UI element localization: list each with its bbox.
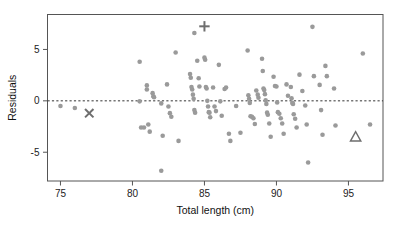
data-point (303, 103, 308, 108)
data-point (176, 139, 181, 144)
data-point (323, 64, 328, 69)
data-point (361, 51, 366, 56)
data-point (260, 69, 265, 74)
data-point (191, 92, 196, 97)
plot-frame (48, 15, 384, 182)
data-point (227, 131, 232, 136)
y-tick-label: 0 (34, 95, 40, 106)
data-point (193, 110, 198, 115)
data-point (224, 85, 229, 90)
data-point (304, 122, 309, 127)
data-point (234, 104, 239, 109)
data-point (211, 85, 216, 90)
data-point (262, 88, 267, 93)
data-point (289, 96, 294, 101)
data-point (245, 48, 250, 53)
data-point (275, 100, 280, 105)
data-point (206, 104, 211, 109)
y-tick-label: -5 (31, 147, 40, 158)
data-point (195, 58, 200, 63)
data-point (58, 104, 63, 109)
data-point (191, 96, 196, 101)
data-point (169, 114, 174, 119)
data-point (312, 74, 317, 79)
data-point (197, 84, 202, 89)
data-point (212, 104, 217, 109)
data-point (204, 86, 209, 91)
data-point (188, 75, 193, 80)
data-point (260, 56, 265, 61)
data-point (263, 92, 268, 97)
data-point (254, 88, 259, 93)
data-point (196, 76, 201, 81)
data-point (205, 99, 210, 104)
x-tick-label: 90 (271, 188, 283, 199)
data-point (291, 112, 296, 117)
x-tick-label: 75 (55, 188, 67, 199)
data-point (294, 125, 299, 130)
data-point (147, 129, 152, 134)
x-tick-label: 95 (343, 188, 355, 199)
data-point (190, 87, 195, 92)
data-point (293, 117, 298, 122)
data-point (332, 86, 337, 91)
data-point (325, 74, 330, 79)
data-point (208, 115, 213, 120)
data-point (218, 99, 223, 104)
data-point (277, 111, 282, 116)
data-point (166, 104, 171, 109)
data-point (310, 25, 315, 30)
data-point (271, 74, 276, 79)
data-point (281, 131, 286, 136)
data-point (192, 31, 197, 36)
data-point (217, 63, 222, 68)
x-axis-title: Total length (cm) (176, 204, 254, 216)
data-point (253, 122, 258, 127)
data-point (267, 121, 272, 126)
data-point (146, 122, 151, 127)
data-point (137, 59, 142, 64)
data-point (214, 109, 219, 114)
data-point (238, 130, 243, 135)
data-point (278, 116, 283, 121)
x-tick-label: 80 (127, 188, 139, 199)
data-point (207, 110, 212, 115)
data-point (145, 87, 150, 92)
marker-triangle-icon (350, 132, 360, 141)
data-point (317, 83, 322, 88)
data-point (165, 82, 170, 87)
data-point (266, 112, 271, 117)
data-point (145, 83, 150, 88)
data-point (251, 116, 256, 121)
data-point (320, 132, 325, 137)
y-axis-title: Residuals (6, 75, 18, 121)
data-point (228, 139, 233, 144)
data-point (368, 122, 373, 127)
data-point (137, 99, 142, 104)
y-tick-label: 5 (34, 44, 40, 55)
x-tick-label: 85 (199, 188, 211, 199)
residual-scatter-figure: 758085909550-5Total length (cm)Residuals (0, 0, 397, 231)
data-point (203, 57, 208, 62)
data-point (268, 135, 273, 140)
data-point (247, 96, 252, 101)
plot-canvas: 758085909550-5Total length (cm)Residuals (0, 0, 397, 231)
data-point (306, 160, 311, 165)
data-point (291, 102, 296, 107)
data-point (300, 89, 305, 94)
data-point (333, 123, 338, 128)
data-point (289, 85, 294, 90)
data-point (256, 95, 261, 100)
data-point (280, 121, 285, 126)
data-point (297, 72, 302, 77)
data-point (274, 84, 279, 89)
data-point (319, 108, 324, 113)
data-point (142, 125, 147, 130)
data-point (160, 133, 165, 138)
data-point (159, 101, 164, 106)
data-point (173, 50, 178, 55)
data-point (219, 113, 224, 118)
data-point (73, 106, 78, 111)
data-point (264, 102, 269, 107)
data-point (284, 82, 289, 87)
